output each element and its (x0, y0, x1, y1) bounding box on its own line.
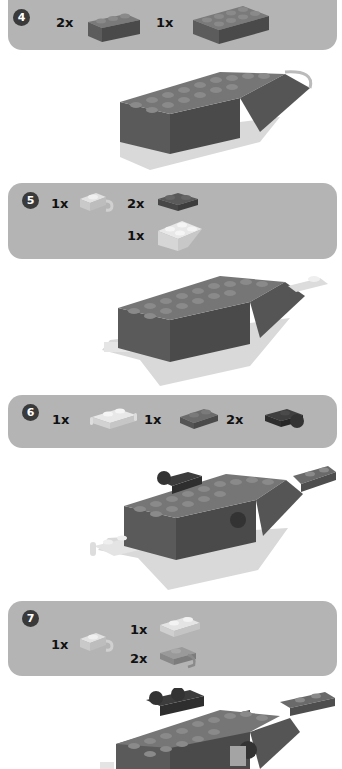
part-quantity: 1x (144, 412, 161, 427)
step-number-badge: 5 (22, 192, 39, 209)
part-quantity: 1x (130, 622, 147, 637)
step-number-badge: 4 (13, 9, 30, 26)
part-quantity: 2x (56, 15, 73, 30)
plate-with-ball-icon (263, 401, 309, 433)
step-4-panel: 4 2x 1x (8, 0, 337, 50)
step-7-panel: 7 1x 1x 2x (8, 601, 337, 676)
part-quantity: 2x (127, 196, 144, 211)
step-5-model-illustration (100, 268, 332, 390)
part-quantity: 1x (127, 228, 144, 243)
inverted-slope-2x2-icon (156, 217, 204, 253)
part-quantity: 1x (51, 637, 68, 652)
part-quantity: 1x (51, 196, 68, 211)
plate-clip-icon (78, 189, 114, 215)
step-6-panel: 6 1x 1x 2x (8, 395, 337, 448)
part-quantity: 1x (156, 15, 173, 30)
brick-1x3-icon (86, 8, 142, 44)
plate-with-handles-icon (88, 403, 140, 433)
brick-2x4-icon (191, 2, 271, 46)
step-5-panel: 5 1x 2x 1x (8, 183, 337, 259)
step-number-badge: 7 (22, 610, 39, 627)
step-number-badge: 6 (22, 404, 39, 421)
step-6-model-illustration (88, 458, 338, 598)
plate-with-socket-icon (158, 641, 200, 671)
part-quantity: 2x (226, 412, 243, 427)
step-4-model-illustration (110, 62, 330, 170)
step-7-model-illustration (100, 688, 340, 769)
plate-2x2-corner-icon (156, 189, 200, 213)
plate-1x2-icon (158, 613, 202, 639)
plate-clip-icon (78, 629, 114, 655)
part-quantity: 2x (130, 651, 147, 666)
part-quantity: 1x (52, 412, 69, 427)
plate-1x2-icon (178, 405, 220, 431)
